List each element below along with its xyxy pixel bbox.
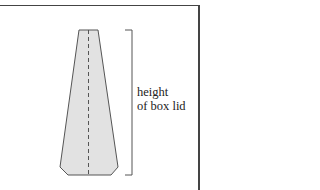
height-label: height of box lid bbox=[137, 85, 186, 113]
height-label-line-2: of box lid bbox=[137, 99, 186, 113]
height-bracket bbox=[125, 30, 132, 175]
height-label-line-1: height bbox=[137, 85, 186, 99]
